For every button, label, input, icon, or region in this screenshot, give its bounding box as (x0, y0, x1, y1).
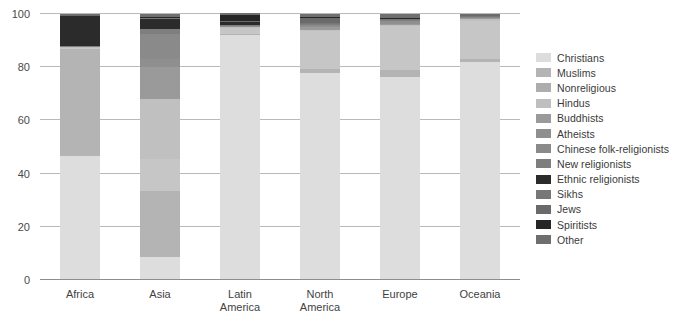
bar-segment (140, 18, 180, 20)
legend-item[interactable]: Atheists (536, 126, 682, 141)
bar-segment (140, 19, 180, 28)
bar-segment (220, 21, 260, 22)
bar-segment (380, 70, 420, 77)
legend-item-label: Jews (557, 203, 581, 215)
legend-swatch-icon (536, 159, 551, 168)
y-axis-labels: 020406080100 (0, 0, 34, 316)
legend-item-label: Muslims (557, 67, 596, 79)
bar-segment (300, 14, 340, 17)
bar-segment (300, 27, 340, 29)
bar-segment (220, 28, 260, 35)
legend-item[interactable]: Spiritists (536, 217, 682, 232)
bar-segment (300, 25, 340, 26)
legend-item[interactable]: New religionists (536, 156, 682, 171)
bar-group (140, 14, 180, 280)
y-tick-label-20: 20 (18, 221, 30, 233)
legend-swatch-icon (536, 129, 551, 138)
bar-group (220, 14, 260, 280)
stacked-bar[interactable] (380, 14, 420, 280)
bar-group (380, 14, 420, 280)
legend-item-label: Chinese folk-religionists (557, 143, 669, 155)
bar-segment (380, 26, 420, 70)
bar-segment (60, 49, 100, 157)
bar-segment (300, 24, 340, 25)
bar-segment (460, 62, 500, 280)
x-tick-label-line: Latin (200, 288, 280, 301)
bar-group (300, 14, 340, 280)
bar-segment (380, 14, 420, 18)
bar-segment (300, 30, 340, 32)
legend-item-label: Atheists (557, 128, 595, 140)
legend-item-label: Christians (557, 52, 604, 64)
legend-item[interactable]: Other (536, 232, 682, 247)
x-tick-label-line: Europe (360, 288, 440, 301)
legend-swatch-icon (536, 144, 551, 153)
bar-segment (140, 257, 180, 280)
legend-item[interactable]: Chinese folk-religionists (536, 141, 682, 156)
legend-swatch-icon (536, 235, 551, 244)
legend-item[interactable]: Muslims (536, 65, 682, 80)
bar-segment (220, 15, 260, 21)
legend: ChristiansMuslimsNonreligiousHindusBuddh… (536, 50, 682, 247)
y-tick-label-100: 100 (12, 8, 30, 20)
x-axis-labels: AfricaAsiaLatinAmericaNorthAmericaEurope… (40, 283, 520, 316)
x-tick-label-line: America (200, 301, 280, 314)
legend-swatch-icon (536, 83, 551, 92)
legend-item[interactable]: Christians (536, 50, 682, 65)
bar-group (460, 14, 500, 280)
legend-item-label: Spiritists (557, 219, 597, 231)
plot-area (40, 14, 520, 280)
bar-segment (140, 99, 180, 159)
x-tick-label: NorthAmerica (280, 288, 360, 313)
bar-group (60, 14, 100, 280)
bar-segment (300, 73, 340, 280)
legend-item-label: Nonreligious (557, 82, 616, 94)
bar-segment (460, 59, 500, 62)
legend-item[interactable]: Jews (536, 202, 682, 217)
x-tick-label-line: Asia (120, 288, 200, 301)
x-tick-label-line: Africa (40, 288, 120, 301)
x-tick-label: Africa (40, 288, 120, 301)
bar-segment (220, 35, 260, 280)
stacked-bar[interactable] (460, 14, 500, 280)
legend-item[interactable]: Sikhs (536, 187, 682, 202)
stacked-bar[interactable] (220, 14, 260, 280)
x-tick-label-line: Oceania (440, 288, 520, 301)
x-tick-label: Asia (120, 288, 200, 301)
legend-item[interactable]: Buddhists (536, 111, 682, 126)
y-tick-label-0: 0 (24, 274, 30, 286)
legend-item-label: Hindus (557, 97, 590, 109)
legend-swatch-icon (536, 99, 551, 108)
legend-item[interactable]: Hindus (536, 96, 682, 111)
bar-segment (60, 14, 100, 15)
bar-segment (300, 69, 340, 73)
bar-segment (460, 19, 500, 20)
x-tick-label-line: America (280, 301, 360, 314)
bar-segment (140, 67, 180, 99)
bar-segment (300, 23, 340, 24)
legend-item[interactable]: Ethnic religionists (536, 172, 682, 187)
stacked-bar[interactable] (140, 14, 180, 280)
legend-swatch-icon (536, 114, 551, 123)
bar-segment (220, 25, 260, 26)
bar-segment (140, 159, 180, 191)
bar-segment (300, 17, 340, 18)
bar-segment (220, 13, 260, 15)
bar-segment (460, 21, 500, 60)
bars-container (40, 14, 520, 280)
legend-swatch-icon (536, 190, 551, 199)
bar-segment (140, 14, 180, 17)
x-tick-label: Oceania (440, 288, 520, 301)
legend-item[interactable]: Nonreligious (536, 80, 682, 95)
bar-segment (60, 47, 100, 48)
bar-segment (60, 156, 100, 280)
legend-item-label: Buddhists (557, 112, 604, 124)
stacked-bar-chart: 020406080100 AfricaAsiaLatinAmericaNorth… (0, 0, 682, 316)
bar-segment (460, 14, 500, 15)
stacked-bar[interactable] (60, 14, 100, 280)
bar-segment (220, 22, 260, 25)
bar-segment (220, 34, 260, 35)
bar-segment (300, 31, 340, 68)
stacked-bar[interactable] (300, 14, 340, 280)
x-axis-line (40, 279, 520, 280)
